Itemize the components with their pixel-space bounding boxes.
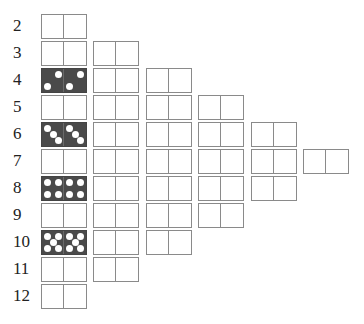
domino-left-half	[304, 150, 326, 173]
domino	[251, 122, 297, 147]
domino-right-half	[116, 204, 138, 227]
row-label: 4	[0, 68, 33, 92]
domino	[146, 68, 192, 93]
domino-right-half	[64, 204, 86, 227]
domino-left-half	[42, 204, 64, 227]
domino	[41, 149, 87, 174]
domino-left-half	[42, 285, 64, 308]
pip-icon	[77, 245, 84, 252]
pip-icon	[44, 245, 51, 252]
domino-highlighted	[41, 122, 87, 147]
domino-left-half	[199, 177, 221, 200]
domino-right-half	[64, 150, 86, 173]
domino-right-half	[274, 123, 296, 146]
domino	[93, 257, 139, 282]
domino	[303, 149, 349, 174]
sum-label: 5	[13, 95, 33, 119]
domino-right-half	[221, 204, 243, 227]
domino-left-half	[94, 96, 116, 119]
sum-label: 9	[13, 203, 33, 227]
domino-right-half	[116, 258, 138, 281]
domino-left-half	[94, 177, 116, 200]
domino-left-half	[42, 96, 64, 119]
domino-right-half	[221, 123, 243, 146]
domino-right-half	[169, 177, 191, 200]
domino-right-half	[64, 258, 86, 281]
domino-right-half	[64, 15, 86, 38]
domino-right-half	[116, 231, 138, 254]
domino-left-half	[199, 204, 221, 227]
domino-right-half	[116, 96, 138, 119]
row-label: 9	[0, 203, 33, 227]
domino-left-half	[42, 69, 64, 92]
pip-icon	[66, 83, 73, 90]
pip-icon	[44, 191, 51, 198]
domino-left-half	[252, 123, 274, 146]
sum-label: 12	[13, 284, 33, 308]
domino	[93, 122, 139, 147]
domino-left-half	[94, 150, 116, 173]
domino-right-half	[274, 150, 296, 173]
row-label: 10	[0, 230, 33, 254]
pip-icon	[66, 233, 73, 240]
domino-left-half	[252, 150, 274, 173]
pip-icon	[44, 179, 51, 186]
sum-label: 4	[13, 68, 33, 92]
sum-label: 3	[13, 41, 33, 65]
domino	[146, 176, 192, 201]
domino	[93, 230, 139, 255]
sum-label: 6	[13, 122, 33, 146]
domino-left-half	[147, 204, 169, 227]
domino-right-half	[116, 42, 138, 65]
domino	[93, 68, 139, 93]
domino-left-half	[94, 42, 116, 65]
domino-left-half	[42, 177, 64, 200]
pip-icon	[55, 191, 62, 198]
domino-right-half	[116, 177, 138, 200]
domino-right-half	[64, 123, 86, 146]
domino-left-half	[147, 96, 169, 119]
domino-right-half	[64, 96, 86, 119]
domino-highlighted	[41, 68, 87, 93]
domino	[146, 203, 192, 228]
pip-icon	[44, 125, 51, 132]
domino	[41, 95, 87, 120]
domino-right-half	[221, 177, 243, 200]
domino-right-half	[64, 69, 86, 92]
domino-right-half	[64, 285, 86, 308]
domino	[93, 203, 139, 228]
domino-right-half	[116, 69, 138, 92]
domino	[198, 176, 244, 201]
domino	[198, 149, 244, 174]
domino	[41, 257, 87, 282]
domino-left-half	[199, 123, 221, 146]
pip-icon	[55, 137, 62, 144]
row-label: 5	[0, 95, 33, 119]
domino	[41, 284, 87, 309]
pip-icon	[77, 191, 84, 198]
domino-right-half	[64, 177, 86, 200]
pip-icon	[44, 233, 51, 240]
sum-label: 8	[13, 176, 33, 200]
row-label: 2	[0, 14, 33, 38]
domino	[93, 41, 139, 66]
domino-right-half	[116, 123, 138, 146]
pip-icon	[55, 179, 62, 186]
domino-right-half	[64, 231, 86, 254]
domino	[146, 149, 192, 174]
domino	[198, 203, 244, 228]
domino-left-half	[147, 177, 169, 200]
domino	[41, 14, 87, 39]
domino-left-half	[252, 177, 274, 200]
domino	[146, 230, 192, 255]
pip-icon	[77, 233, 84, 240]
domino-left-half	[94, 231, 116, 254]
sum-label: 10	[13, 230, 33, 254]
pip-icon	[66, 245, 73, 252]
domino	[93, 176, 139, 201]
domino-left-half	[42, 123, 64, 146]
domino	[198, 122, 244, 147]
domino-right-half	[64, 42, 86, 65]
domino-right-half	[221, 150, 243, 173]
domino	[93, 149, 139, 174]
